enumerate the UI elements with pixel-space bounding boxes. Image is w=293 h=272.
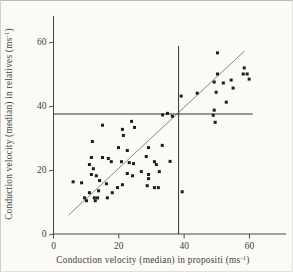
scatter-points bbox=[72, 51, 251, 202]
x-tick-label: 60 bbox=[245, 241, 255, 251]
x-tick-label: 0 bbox=[51, 241, 56, 251]
data-point bbox=[214, 121, 217, 124]
data-point bbox=[146, 184, 149, 187]
data-point bbox=[116, 186, 119, 189]
data-point bbox=[130, 120, 133, 123]
data-point bbox=[85, 199, 88, 202]
data-point bbox=[243, 66, 246, 69]
data-point bbox=[88, 163, 91, 166]
data-point bbox=[117, 146, 120, 149]
y-tick-label: 20 bbox=[37, 165, 47, 175]
data-point bbox=[180, 95, 183, 98]
data-point bbox=[161, 113, 164, 116]
chart-canvas: 02040600204060Conduction velocity (media… bbox=[1, 1, 292, 272]
data-point bbox=[101, 124, 104, 127]
data-point bbox=[121, 183, 124, 186]
y-tick bbox=[49, 170, 54, 171]
data-point bbox=[225, 101, 228, 104]
data-point bbox=[80, 181, 83, 184]
data-point bbox=[105, 182, 108, 185]
data-point bbox=[230, 79, 233, 82]
y-tick bbox=[49, 42, 54, 43]
x-tick-label: 40 bbox=[179, 241, 189, 251]
data-point bbox=[232, 87, 235, 90]
data-point bbox=[147, 146, 150, 149]
data-point bbox=[140, 170, 143, 173]
data-point bbox=[222, 81, 225, 84]
data-point bbox=[94, 199, 97, 202]
x-axis-label: Conduction velocity (median) in proposit… bbox=[56, 254, 249, 266]
data-point bbox=[145, 155, 148, 158]
data-point bbox=[216, 51, 219, 54]
y-tick bbox=[49, 234, 54, 235]
data-point bbox=[106, 196, 109, 199]
data-point bbox=[107, 157, 110, 160]
y-tick-label: 60 bbox=[37, 37, 47, 47]
data-point bbox=[181, 190, 184, 193]
data-point bbox=[126, 172, 129, 175]
data-point bbox=[248, 78, 251, 81]
data-point bbox=[128, 161, 131, 164]
data-point bbox=[97, 189, 100, 192]
data-point bbox=[242, 73, 245, 76]
data-point bbox=[131, 174, 134, 177]
data-point bbox=[96, 196, 99, 199]
chart-svg: 02040600204060Conduction velocity (media… bbox=[1, 1, 292, 271]
data-point bbox=[90, 156, 93, 159]
data-point bbox=[166, 112, 169, 115]
data-point bbox=[157, 186, 160, 189]
data-point bbox=[101, 156, 104, 159]
data-point bbox=[216, 73, 219, 76]
data-point bbox=[153, 160, 156, 163]
y-tick-label: 0 bbox=[42, 229, 47, 239]
data-point bbox=[83, 196, 86, 199]
data-point bbox=[213, 109, 216, 112]
data-point bbox=[132, 162, 135, 165]
data-point bbox=[161, 144, 164, 147]
data-point bbox=[212, 114, 215, 117]
y-axis-label: Conduction velocity (median) in relative… bbox=[3, 28, 15, 220]
axes bbox=[54, 16, 287, 234]
data-point bbox=[72, 180, 75, 183]
y-tick-label: 40 bbox=[37, 101, 47, 111]
data-point bbox=[246, 73, 249, 76]
y-tick bbox=[49, 106, 54, 107]
data-point bbox=[91, 140, 94, 143]
scatter-chart-figure: 02040600204060Conduction velocity (media… bbox=[0, 0, 293, 272]
data-point bbox=[133, 126, 136, 129]
identity-line bbox=[69, 51, 245, 215]
data-point bbox=[215, 91, 218, 94]
data-point bbox=[110, 160, 113, 163]
data-point bbox=[95, 174, 98, 177]
data-point bbox=[213, 81, 216, 84]
data-point bbox=[88, 191, 91, 194]
data-point bbox=[90, 173, 93, 176]
data-point bbox=[153, 186, 156, 189]
data-point bbox=[93, 196, 96, 199]
data-point bbox=[120, 160, 123, 163]
data-point bbox=[121, 128, 124, 131]
data-point bbox=[126, 149, 129, 152]
data-point bbox=[155, 163, 158, 166]
data-point bbox=[196, 92, 199, 95]
data-point bbox=[92, 167, 95, 170]
data-point bbox=[111, 191, 114, 194]
data-point bbox=[169, 160, 172, 163]
data-point bbox=[122, 134, 125, 137]
data-point bbox=[171, 115, 174, 118]
tick-marks: 02040600204060 bbox=[37, 37, 254, 251]
data-point bbox=[158, 170, 161, 173]
data-point bbox=[147, 173, 150, 176]
x-tick-label: 20 bbox=[114, 241, 124, 251]
data-point bbox=[98, 179, 101, 182]
data-point bbox=[147, 177, 150, 180]
